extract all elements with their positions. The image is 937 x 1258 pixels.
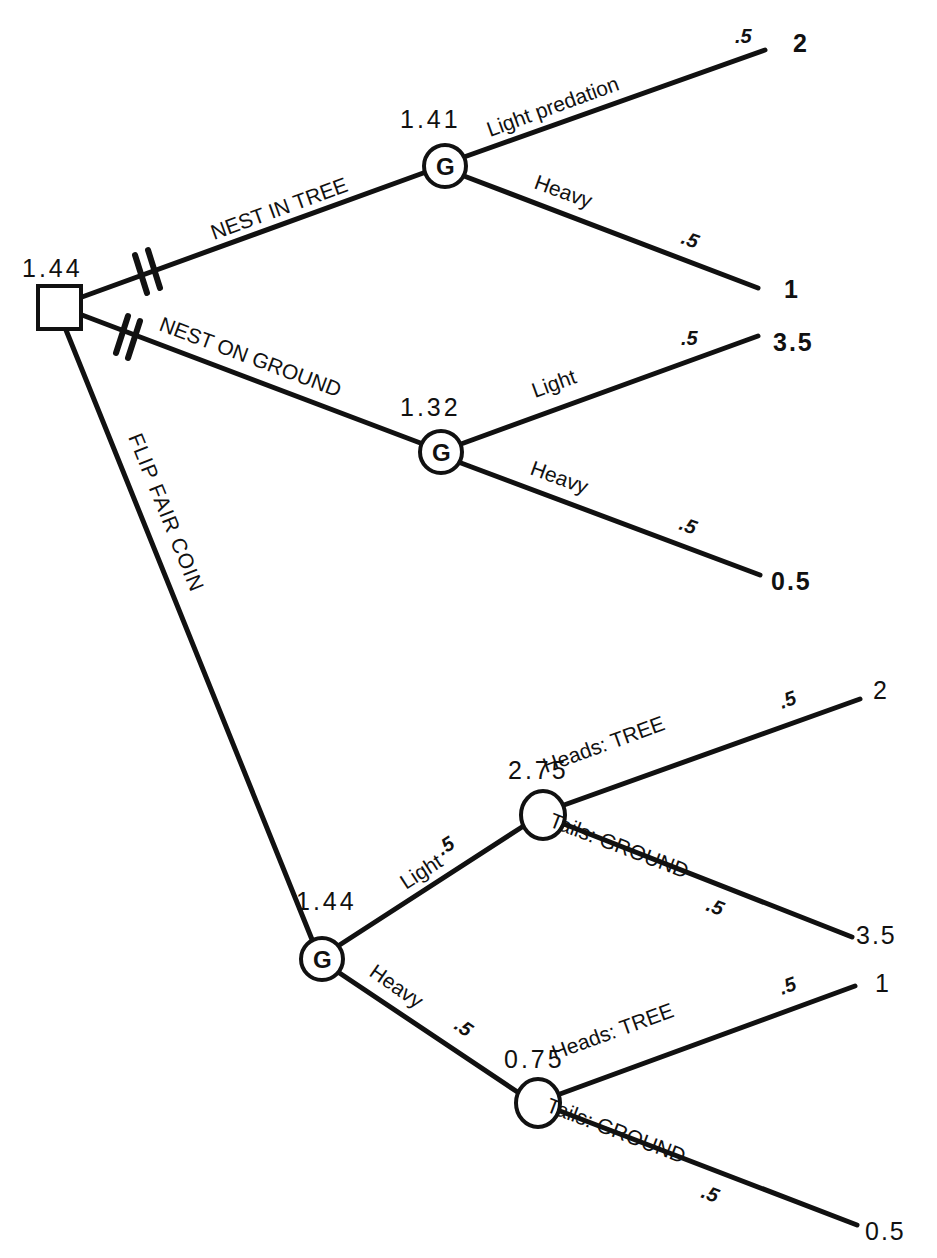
ground-node-value: 1.32 — [400, 393, 461, 421]
prob-ground-light: .5 — [681, 327, 699, 349]
edge-nest-in-tree — [82, 172, 426, 297]
decision-node-root — [38, 286, 81, 329]
edge-ground-light — [461, 336, 758, 444]
payoff-light-heads: 2 — [873, 676, 889, 704]
prob-light-heads: .5 — [776, 686, 800, 713]
prob-coin-heavy: .5 — [451, 1013, 478, 1041]
label-light-heads: Heads: TREE — [540, 711, 668, 776]
g-icon: G — [432, 439, 451, 466]
edge-coin-light — [338, 827, 522, 946]
payoff-light-tails: 3.5 — [856, 921, 897, 949]
prob-tree-heavy: .5 — [679, 226, 703, 253]
decision-tree: 1.44 G 1.41 G 1.32 G 1.44 2.75 0.75 NEST… — [0, 0, 937, 1258]
label-heavy-tails: Tails: GROUND — [544, 1093, 689, 1167]
edge-ground-heavy — [461, 463, 760, 575]
label-heavy-heads: Heads: TREE — [549, 998, 677, 1063]
payoff-heavy-tails: 0.5 — [865, 1217, 906, 1245]
label-nest-on-ground: NEST ON GROUND — [157, 312, 345, 401]
g-icon: G — [436, 153, 455, 180]
edge-tree-light — [464, 50, 765, 157]
payoff-tree-heavy: 1 — [784, 275, 800, 303]
label-ground-light: Light — [529, 365, 580, 402]
prob-light-tails: .5 — [704, 893, 728, 920]
prune-mark-ground — [116, 316, 140, 358]
prob-ground-heavy: .5 — [677, 512, 701, 539]
payoff-tree-light: 2 — [793, 29, 809, 57]
payoff-ground-heavy: 0.5 — [771, 567, 812, 595]
prob-heavy-tails: .5 — [699, 1180, 723, 1207]
label-light-tails: Tails: GROUND — [547, 808, 692, 882]
prob-tree-light: .5 — [735, 25, 753, 47]
edge-flip-fair-coin — [66, 330, 313, 942]
payoff-ground-light: 3.5 — [773, 328, 814, 356]
label-coin-light: Light — [396, 849, 447, 893]
coin-node-value: 1.44 — [296, 887, 357, 915]
root-value: 1.44 — [22, 254, 83, 282]
tree-node-value: 1.41 — [400, 105, 461, 133]
prob-heavy-heads: .5 — [776, 972, 800, 999]
label-coin-heavy: Heavy — [366, 959, 428, 1012]
edge-tree-heavy — [464, 176, 758, 288]
payoff-heavy-heads: 1 — [875, 969, 891, 997]
g-icon: G — [313, 946, 332, 973]
edge-coin-heavy — [338, 972, 519, 1093]
